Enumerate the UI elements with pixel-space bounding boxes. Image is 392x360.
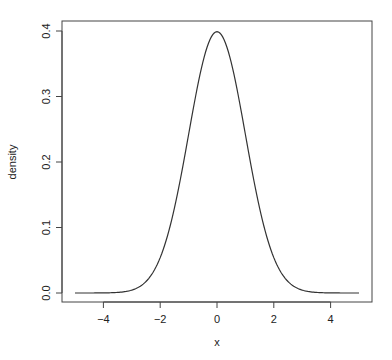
y-tick-label: 0.4 [40, 23, 52, 38]
x-tick-label: 2 [271, 313, 277, 325]
y-tick-label: 0.2 [40, 154, 52, 169]
density-plot: 0.00.10.20.30.4 −4−2024 x density [0, 0, 392, 360]
y-axis: 0.00.10.20.30.4 [40, 23, 62, 300]
chart-container: 0.00.10.20.30.4 −4−2024 x density [0, 0, 392, 360]
x-tick-label: 0 [214, 313, 220, 325]
y-axis-label: density [6, 144, 18, 179]
x-tick-label: −4 [97, 313, 110, 325]
x-axis: −4−2024 [97, 302, 334, 325]
y-tick-label: 0.1 [40, 220, 52, 235]
x-tick-label: 4 [328, 313, 334, 325]
plot-frame [62, 21, 372, 302]
x-tick-label: −2 [154, 313, 167, 325]
x-axis-label: x [214, 336, 220, 348]
density-curve [75, 32, 359, 293]
y-tick-label: 0.3 [40, 89, 52, 104]
y-tick-label: 0.0 [40, 285, 52, 300]
